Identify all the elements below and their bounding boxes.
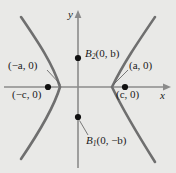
label-conjugate-bottom: B1(0, −b) xyxy=(86,135,127,149)
point-focus-left xyxy=(45,84,51,90)
x-axis-label: x xyxy=(160,90,165,101)
point-conjugate-bottom xyxy=(75,114,81,120)
label-focus-right: (c, 0) xyxy=(116,89,139,100)
label-focus-left: (−c, 0) xyxy=(12,89,41,100)
leader-line-conjugate-bottom xyxy=(80,121,89,136)
y-axis xyxy=(75,10,82,168)
label-conjugate-top-coords: (0, b) xyxy=(95,47,119,59)
y-axis-label: y xyxy=(68,9,73,20)
label-conjugate-bottom-coords: (0, −b) xyxy=(96,134,126,146)
label-vertex-right: (a, 0) xyxy=(129,60,152,71)
hyperbola-figure: y x (−a, 0) (−c, 0) (a, 0) (c, 0) B2(0, … xyxy=(0,0,176,173)
label-vertex-left: (−a, 0) xyxy=(8,60,37,71)
label-conjugate-top-name: B xyxy=(85,47,92,59)
label-conjugate-top: B2(0, b) xyxy=(85,48,119,62)
label-conjugate-bottom-name: B xyxy=(86,134,93,146)
point-conjugate-top xyxy=(75,55,81,61)
